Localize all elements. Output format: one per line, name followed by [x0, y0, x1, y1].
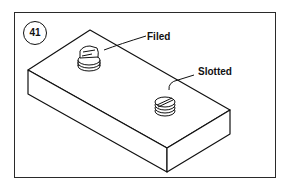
filed-screw-icon	[78, 46, 100, 71]
slotted-screw-icon	[155, 97, 175, 116]
label-filed: Filed	[147, 31, 170, 42]
figure-number-badge: 41	[23, 21, 47, 45]
label-slotted: Slotted	[198, 66, 232, 77]
